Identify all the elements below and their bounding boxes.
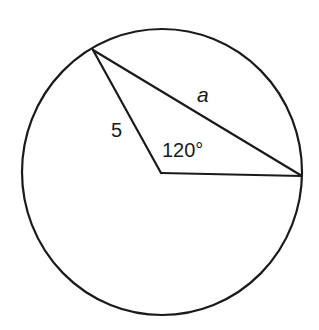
- diagram-canvas: [0, 0, 319, 330]
- radius-to-right: [161, 173, 302, 176]
- radius-to-top-left: [93, 50, 161, 173]
- chord-label: a: [197, 84, 209, 105]
- radius-label: 5: [111, 120, 122, 140]
- angle-label: 120°: [162, 140, 203, 160]
- circle-diagram: a 5 120°: [0, 0, 319, 330]
